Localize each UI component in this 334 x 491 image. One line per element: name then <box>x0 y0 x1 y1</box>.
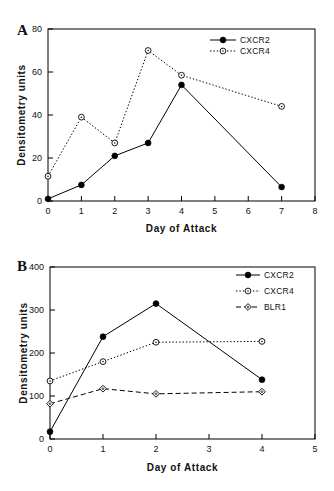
x-tick-label: 3 <box>206 444 211 454</box>
x-tick-label: 1 <box>100 444 105 454</box>
y-tick-label: 0 <box>39 434 44 444</box>
legend-item-cxcr2: CXCR2 <box>236 270 294 280</box>
y-tick-label: 300 <box>29 305 44 315</box>
y-axis-title: Densitometry units <box>18 302 29 403</box>
x-axis-title: Day of Attack <box>147 462 218 473</box>
x-tick-label: 4 <box>179 206 184 216</box>
y-tick-label: 100 <box>29 391 44 401</box>
x-tick-label: 5 <box>212 206 217 216</box>
x-tick-label: 7 <box>279 206 284 216</box>
x-tick-label: 2 <box>112 206 117 216</box>
y-tick-label: 20 <box>32 153 42 163</box>
legend-label: BLR1 <box>264 302 286 312</box>
y-tick-label: 40 <box>32 110 42 120</box>
x-tick-label: 4 <box>259 444 264 454</box>
x-tick-label: 0 <box>47 444 52 454</box>
panel-b-chart: 0100200300400012345CXCR2CXCR4BLR1Day of … <box>0 245 334 491</box>
legend-label: CXCR2 <box>264 270 294 280</box>
x-axis-title: Day of Attack <box>146 223 217 234</box>
y-tick-label: 0 <box>37 196 42 206</box>
figure-container: A 020406080012345678CXCR2CXCR4Day of Att… <box>0 0 334 491</box>
plot-frame <box>48 29 315 201</box>
series-cxcr2 <box>45 82 284 202</box>
x-tick-label: 1 <box>79 206 84 216</box>
y-tick-label: 60 <box>32 67 42 77</box>
legend-item-cxcr4: CXCR4 <box>236 286 294 296</box>
legend: CXCR2CXCR4BLR1 <box>236 270 294 312</box>
x-tick-label: 8 <box>312 206 317 216</box>
legend: CXCR2CXCR4 <box>210 35 270 56</box>
y-tick-label: 80 <box>32 24 42 34</box>
x-tick-label: 6 <box>246 206 251 216</box>
panel-a-chart: 020406080012345678CXCR2CXCR4Day of Attac… <box>0 0 334 245</box>
legend-item-cxcr2: CXCR2 <box>210 35 270 45</box>
series-cxcr2 <box>47 301 265 435</box>
x-tick-label: 2 <box>153 444 158 454</box>
x-axis-ticks: 012345 <box>47 434 317 454</box>
series-blr1 <box>47 385 266 407</box>
legend-label: CXCR4 <box>264 286 294 296</box>
y-tick-label: 200 <box>29 348 44 358</box>
legend-item-cxcr4: CXCR4 <box>210 46 270 56</box>
panel-b: B 0100200300400012345CXCR2CXCR4BLR1Day o… <box>0 245 334 491</box>
y-axis-title: Densitometry units <box>16 64 27 165</box>
x-tick-label: 5 <box>312 444 317 454</box>
legend-label: CXCR2 <box>240 35 270 45</box>
series-cxcr4 <box>47 338 265 383</box>
x-axis-ticks: 012345678 <box>45 196 317 216</box>
panel-a: A 020406080012345678CXCR2CXCR4Day of Att… <box>0 0 334 245</box>
legend-label: CXCR4 <box>240 46 270 56</box>
x-tick-label: 3 <box>146 206 151 216</box>
y-tick-label: 400 <box>29 262 44 272</box>
y-axis-ticks: 0100200300400 <box>29 262 55 444</box>
legend-item-blr1: BLR1 <box>236 302 286 312</box>
x-tick-label: 0 <box>45 206 50 216</box>
